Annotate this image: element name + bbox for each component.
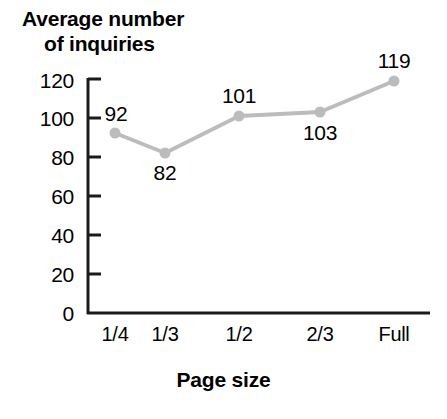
y-tick-label-40: 40 (24, 225, 74, 246)
y-tick-label-120: 120 (24, 70, 74, 91)
data-point-2 (160, 148, 171, 159)
y-tick-label-20: 20 (24, 264, 74, 285)
y-tick-label-0: 0 (24, 303, 74, 324)
x-tick-label-4: 2/3 (285, 324, 355, 344)
x-tick-label-5: Full (359, 324, 429, 344)
x-axis-title: Page size (0, 368, 447, 392)
data-label-1: 92 (81, 103, 151, 124)
y-tick-label-100: 100 (24, 108, 74, 129)
y-tick-label-60: 60 (24, 186, 74, 207)
data-label-3: 101 (204, 85, 274, 106)
x-tick-label-2: 1/3 (130, 324, 200, 344)
x-tick-label-3: 1/2 (204, 324, 274, 344)
data-label-2: 82 (130, 162, 200, 183)
data-point-5 (389, 76, 400, 87)
data-point-4 (315, 107, 326, 118)
data-point-1 (110, 128, 121, 139)
data-point-3 (234, 111, 245, 122)
data-label-5: 119 (359, 50, 429, 71)
chart-figure: Average numberof inquiries 120 100 80 60… (0, 0, 447, 419)
data-label-4: 103 (285, 122, 355, 143)
y-tick-label-80: 80 (24, 147, 74, 168)
